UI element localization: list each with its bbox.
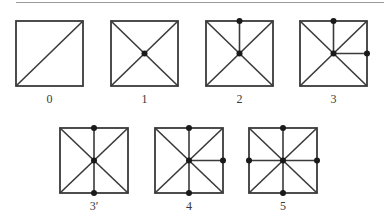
panel-label: 0 bbox=[47, 93, 53, 105]
vertex-dot-top bbox=[186, 125, 192, 131]
vertex-dot-bottom bbox=[186, 190, 192, 196]
vertex-dot-center bbox=[91, 158, 97, 164]
vertex-dot-right bbox=[314, 158, 320, 164]
panel-label: 3 bbox=[331, 93, 337, 105]
triangulation-diagrams bbox=[0, 0, 387, 222]
panel-label: 1 bbox=[142, 93, 148, 105]
panel-label: 2 bbox=[237, 93, 243, 105]
panel-6 bbox=[246, 125, 320, 196]
vertex-dot-center bbox=[186, 158, 192, 164]
vertex-dot-bottom bbox=[91, 190, 97, 196]
vertex-dot-top bbox=[280, 125, 286, 131]
vertex-dot-bottom bbox=[280, 190, 286, 196]
panel-5 bbox=[155, 125, 226, 196]
vertex-dot-top bbox=[237, 18, 243, 24]
vertex-dot-left bbox=[246, 158, 252, 164]
edge-diag-bl-tr bbox=[16, 21, 83, 86]
panel-label: 5 bbox=[280, 200, 286, 212]
panel-label: 4 bbox=[186, 200, 192, 212]
vertex-dot-right bbox=[220, 158, 226, 164]
panel-0 bbox=[16, 21, 83, 86]
panel-1 bbox=[111, 21, 178, 86]
figure: 01233′45 bbox=[0, 0, 387, 222]
panel-2 bbox=[206, 18, 273, 86]
panel-label: 3′ bbox=[90, 200, 99, 212]
vertex-dot-top bbox=[91, 125, 97, 131]
panel-3 bbox=[300, 18, 370, 86]
vertex-dot-right bbox=[364, 51, 370, 57]
panel-4 bbox=[60, 125, 128, 196]
vertex-dot-center bbox=[237, 51, 243, 57]
vertex-dot-center bbox=[280, 158, 286, 164]
vertex-dot-center bbox=[142, 51, 148, 57]
vertex-dot-center bbox=[331, 51, 337, 57]
vertex-dot-top bbox=[331, 18, 337, 24]
